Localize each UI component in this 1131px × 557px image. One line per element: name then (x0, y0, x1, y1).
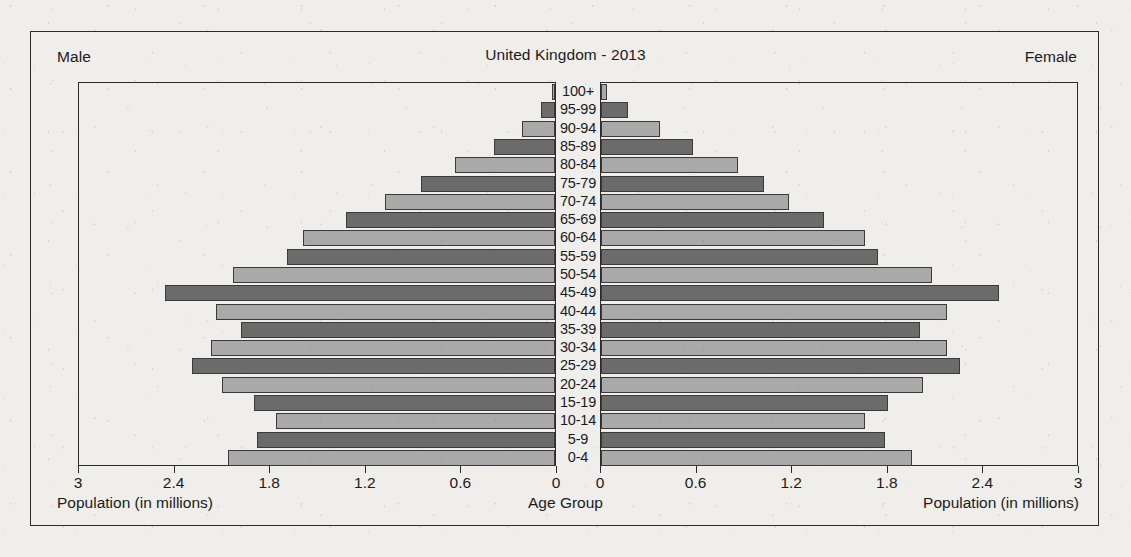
axis-tick (269, 466, 270, 473)
bar-male-75-79 (421, 176, 555, 192)
male-x-axis: 32.41.81.20.60 (78, 466, 556, 496)
bar-female-90-94 (601, 121, 660, 137)
bar-male-90-94 (522, 121, 555, 137)
axis-tick-label: 3 (55, 474, 101, 492)
bar-male-35-39 (241, 322, 555, 338)
bar-male-100plus (552, 84, 555, 100)
axis-tick (365, 466, 366, 473)
bar-female-85-89 (601, 139, 693, 155)
bar-male-85-89 (494, 139, 555, 155)
age-label-70-74: 70-74 (556, 194, 600, 208)
bar-female-75-79 (601, 176, 764, 192)
bar-female-20-24 (601, 377, 923, 393)
axis-tick-label: 3 (1055, 474, 1101, 492)
bar-female-30-34 (601, 340, 947, 356)
axis-tick-label: 0.6 (673, 474, 719, 492)
bar-female-45-49 (601, 285, 999, 301)
age-label-40-44: 40-44 (556, 304, 600, 318)
axis-tick (791, 466, 792, 473)
axis-tick (600, 466, 601, 473)
age-label-65-69: 65-69 (556, 212, 600, 226)
bar-female-10-14 (601, 413, 865, 429)
axis-tick-label: 2.4 (151, 474, 197, 492)
bar-female-100plus (601, 84, 607, 100)
bar-male-50-54 (233, 267, 555, 283)
axis-tick-label: 0.6 (437, 474, 483, 492)
bar-female-35-39 (601, 322, 920, 338)
age-label-5-9: 5-9 (556, 432, 600, 446)
age-label-15-19: 15-19 (556, 395, 600, 409)
axis-tick-label: 1.2 (768, 474, 814, 492)
age-label-20-24: 20-24 (556, 377, 600, 391)
bar-male-70-74 (385, 194, 555, 210)
axis-tick (1078, 466, 1079, 473)
age-label-80-84: 80-84 (556, 157, 600, 171)
age-label-85-89: 85-89 (556, 139, 600, 153)
bar-female-95-99 (601, 102, 628, 118)
bar-female-65-69 (601, 212, 824, 228)
bar-male-40-44 (216, 304, 555, 320)
female-plot-panel (600, 82, 1078, 466)
age-label-50-54: 50-54 (556, 267, 600, 281)
bar-female-40-44 (601, 304, 947, 320)
axis-tick (696, 466, 697, 473)
bar-male-15-19 (254, 395, 555, 411)
bar-male-25-29 (192, 358, 555, 374)
axis-tick (982, 466, 983, 473)
bar-male-20-24 (222, 377, 555, 393)
bar-male-10-14 (276, 413, 555, 429)
bar-male-95-99 (541, 102, 555, 118)
bar-female-55-59 (601, 249, 878, 265)
age-label-35-39: 35-39 (556, 322, 600, 336)
axis-tick-label: 1.8 (246, 474, 292, 492)
axis-tick (887, 466, 888, 473)
male-bars-group (79, 83, 555, 465)
bar-female-0-4 (601, 450, 912, 466)
female-x-axis: 00.61.21.82.43 (600, 466, 1078, 496)
axis-tick (174, 466, 175, 473)
female-bars-group (601, 83, 1077, 465)
bar-male-80-84 (455, 157, 555, 173)
axis-tick-label: 1.8 (864, 474, 910, 492)
bar-female-50-54 (601, 267, 932, 283)
age-label-75-79: 75-79 (556, 176, 600, 190)
bar-female-70-74 (601, 194, 789, 210)
axis-tick (556, 466, 557, 473)
axis-tick-label: 0 (577, 474, 623, 492)
age-label-45-49: 45-49 (556, 285, 600, 299)
bar-male-55-59 (287, 249, 555, 265)
age-label-25-29: 25-29 (556, 358, 600, 372)
age-label-30-34: 30-34 (556, 340, 600, 354)
axis-tick-label: 0 (533, 474, 579, 492)
age-label-60-64: 60-64 (556, 230, 600, 244)
age-group-axis-labels: 100+95-9990-9485-8980-8475-7970-7465-696… (556, 82, 600, 466)
bar-female-60-64 (601, 230, 865, 246)
bar-male-65-69 (346, 212, 555, 228)
age-label-100plus: 100+ (556, 84, 600, 98)
bar-female-5-9 (601, 432, 885, 448)
age-label-55-59: 55-59 (556, 249, 600, 263)
bar-female-25-29 (601, 358, 960, 374)
chart-title: United Kingdom - 2013 (0, 46, 1131, 64)
age-label-95-99: 95-99 (556, 102, 600, 116)
bar-male-5-9 (257, 432, 555, 448)
axis-tick (460, 466, 461, 473)
age-label-90-94: 90-94 (556, 121, 600, 135)
bar-male-60-64 (303, 230, 555, 246)
age-label-0-4: 0-4 (556, 450, 600, 464)
axis-tick-label: 1.2 (342, 474, 388, 492)
bar-female-80-84 (601, 157, 738, 173)
axis-tick-label: 2.4 (959, 474, 1005, 492)
age-label-10-14: 10-14 (556, 413, 600, 427)
bar-male-0-4 (228, 450, 555, 466)
bar-female-15-19 (601, 395, 888, 411)
bar-male-45-49 (165, 285, 555, 301)
male-plot-panel (78, 82, 556, 466)
bar-male-30-34 (211, 340, 555, 356)
axis-tick (78, 466, 79, 473)
right-axis-title: Population (in millions) (923, 494, 1079, 512)
